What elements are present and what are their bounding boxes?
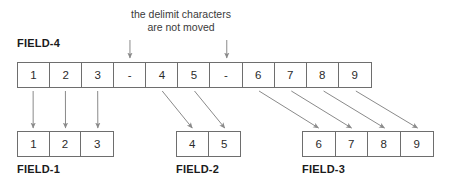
move-arrow: [259, 91, 318, 128]
move-arrow: [356, 91, 418, 128]
source-cell: -: [114, 63, 146, 87]
source-cell: 2: [50, 63, 82, 87]
target-2-cell: 4: [177, 132, 209, 156]
target-row-field-2: 45: [176, 131, 241, 157]
target-2-cell: 5: [209, 132, 241, 156]
target-1-cell: 1: [18, 132, 50, 156]
source-cell: 9: [339, 63, 371, 87]
source-cell: 6: [243, 63, 275, 87]
source-cell: 7: [275, 63, 307, 87]
field-label-field-3: FIELD-3: [302, 163, 345, 175]
caption-line-2: are not moved: [0, 21, 452, 34]
caption-line-1: the delimit characters: [0, 8, 452, 21]
source-cell: 3: [82, 63, 114, 87]
source-cell: 4: [146, 63, 178, 87]
target-row-field-1: 123: [17, 131, 114, 157]
target-1-cell: 2: [50, 132, 82, 156]
move-arrow: [195, 91, 225, 128]
field-label-field-2: FIELD-2: [176, 163, 219, 175]
caption-line-1-text: the delimit characters: [131, 8, 231, 20]
source-cell: 5: [178, 63, 210, 87]
field-label-source: FIELD-4: [17, 37, 60, 49]
move-arrows: [33, 91, 417, 128]
target-1-cell: 3: [81, 132, 113, 156]
source-cell: -: [210, 63, 242, 87]
target-row-field-3: 6789: [302, 131, 434, 157]
source-row-field-4: 123-45-6789: [17, 62, 372, 88]
target-3-cell: 8: [368, 132, 401, 156]
move-arrow: [324, 91, 385, 128]
caption-line-2-text: are not moved: [147, 21, 214, 33]
target-3-cell: 6: [303, 132, 336, 156]
source-cell: 8: [307, 63, 339, 87]
move-arrow: [162, 91, 192, 128]
target-3-cell: 9: [401, 132, 434, 156]
target-3-cell: 7: [336, 132, 369, 156]
field-label-field-1: FIELD-1: [17, 163, 60, 175]
diagram-canvas: the delimit characters are not moved FIE…: [0, 0, 452, 182]
delimiter-arrows: [130, 40, 227, 58]
source-cell: 1: [18, 63, 50, 87]
move-arrow: [291, 91, 351, 128]
